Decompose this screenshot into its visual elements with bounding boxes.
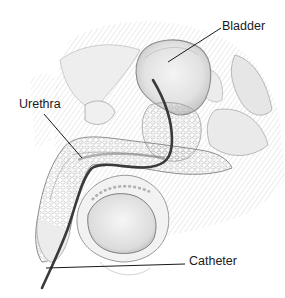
bladder-label: Bladder bbox=[222, 20, 265, 33]
catheter-leader-line bbox=[46, 264, 185, 268]
urethra-label: Urethra bbox=[19, 98, 61, 111]
testis-organ bbox=[77, 175, 169, 275]
anatomy-illustration bbox=[0, 0, 285, 298]
catheter-label: Catheter bbox=[189, 255, 237, 268]
